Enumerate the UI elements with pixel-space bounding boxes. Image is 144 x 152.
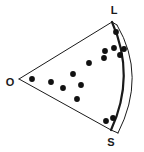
wedge-scatter-diagram: O L S (0, 0, 144, 152)
scatter-point (74, 96, 80, 102)
inner-arc (111, 22, 124, 130)
scatter-point (48, 79, 54, 85)
scatter-point (121, 46, 127, 52)
label-origin: O (6, 76, 15, 88)
scatter-point (111, 45, 117, 51)
scatter-point (86, 60, 92, 66)
scatter-point (60, 85, 66, 91)
scatter-point (102, 48, 108, 54)
band-cap-bottom (111, 130, 118, 133)
label-short-axis: S (107, 136, 114, 148)
scatter-point (103, 118, 109, 124)
scatter-point (70, 71, 76, 77)
edge-origin-to-long (19, 22, 112, 79)
scatter-point (110, 115, 116, 121)
scatter-point (29, 76, 35, 82)
scatter-point (78, 82, 84, 88)
scatter-point (117, 52, 123, 58)
wedge-edges (19, 22, 112, 130)
scatter-point (101, 55, 107, 61)
label-long-axis: L (111, 4, 118, 16)
figure-container: O L S (0, 0, 144, 152)
scatter-point (113, 29, 119, 35)
